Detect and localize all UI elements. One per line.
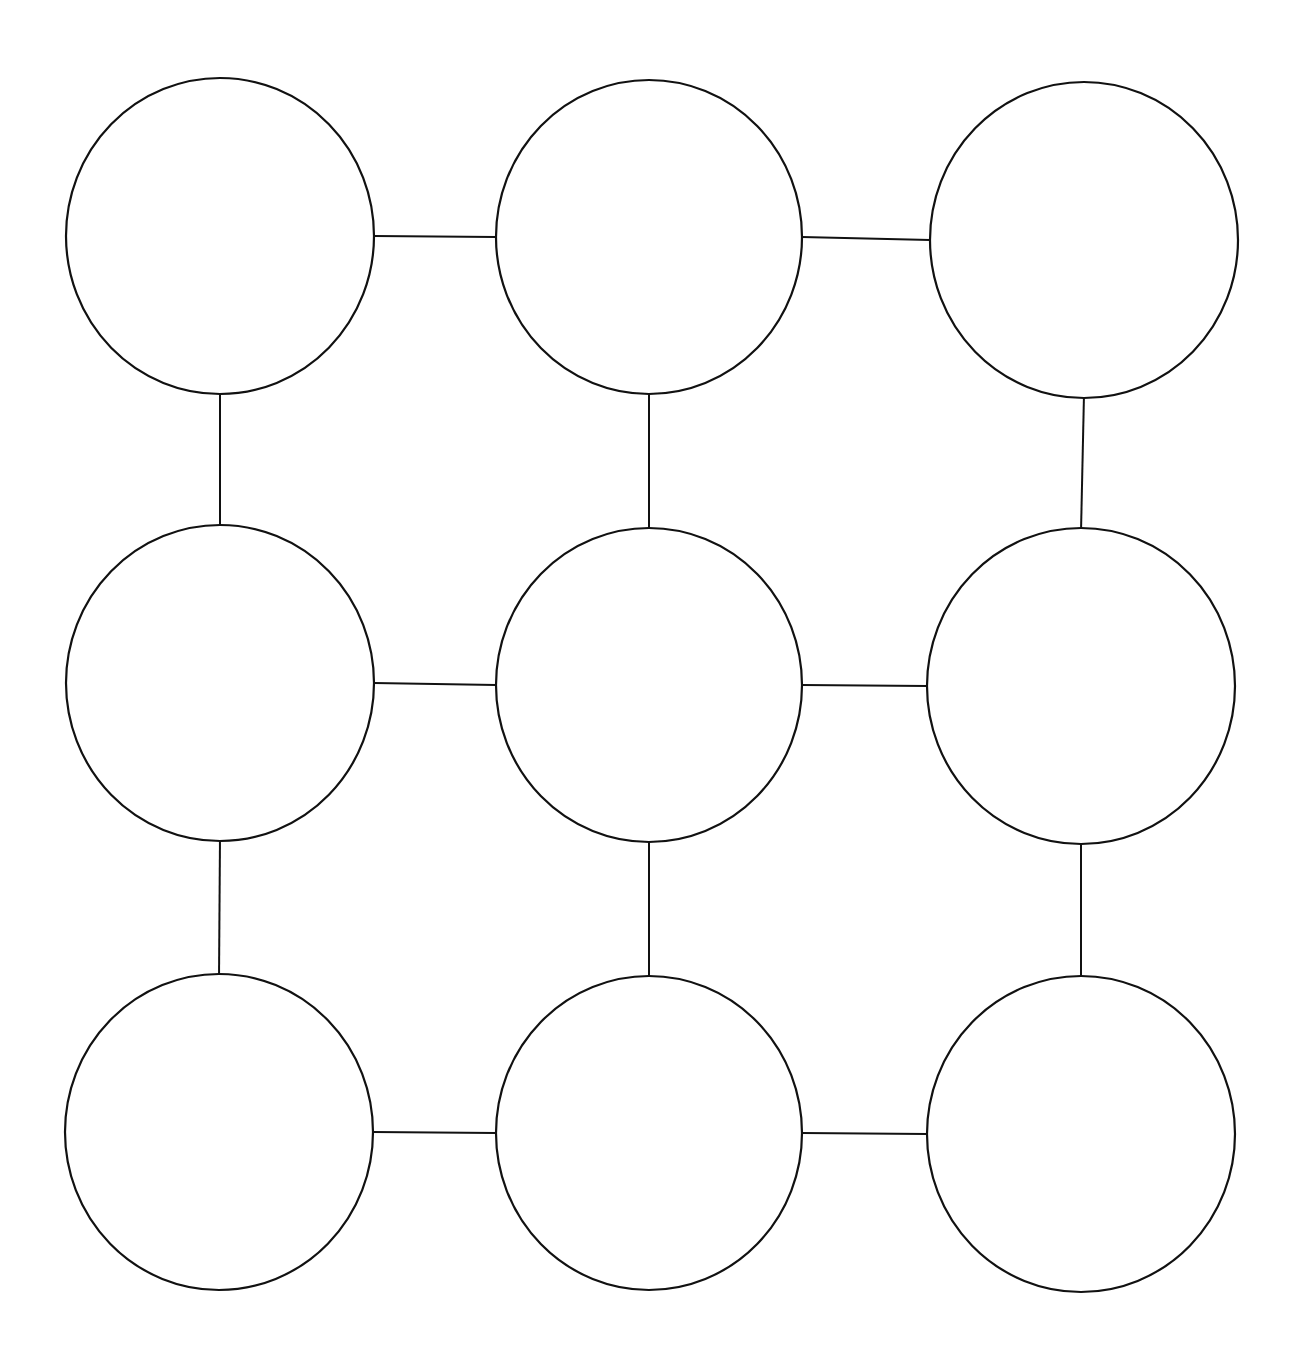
edge-r2c2-r2c3: [802, 685, 927, 686]
node-r1c2: [496, 80, 802, 394]
node-r3c2: [496, 976, 802, 1290]
circle-node: [496, 80, 802, 394]
node-r2c1: [66, 525, 374, 841]
nodes-layer: [65, 78, 1238, 1292]
edge-r1c2-r1c3: [802, 237, 930, 240]
edge-r2c1-r2c2: [374, 683, 496, 685]
node-r3c3: [927, 976, 1235, 1292]
node-r1c1: [66, 78, 374, 394]
circle-node: [496, 976, 802, 1290]
circle-node: [66, 78, 374, 394]
circle-node: [927, 976, 1235, 1292]
circle-node: [927, 528, 1235, 844]
edge-r3c1-r3c2: [373, 1132, 496, 1133]
node-r2c2: [496, 528, 802, 842]
edge-r1c3-r2c3: [1081, 394, 1084, 532]
circle-node: [66, 525, 374, 841]
node-r2c3: [927, 528, 1235, 844]
circle-node: [65, 974, 373, 1290]
edge-r1c1-r1c2: [374, 236, 496, 237]
node-r3c1: [65, 974, 373, 1290]
circle-node: [496, 528, 802, 842]
grid-graph-diagram: [0, 0, 1301, 1369]
circle-node: [930, 82, 1238, 398]
node-r1c3: [930, 82, 1238, 398]
edge-r2c1-r3c1: [219, 837, 220, 978]
edge-r3c2-r3c3: [802, 1133, 927, 1134]
